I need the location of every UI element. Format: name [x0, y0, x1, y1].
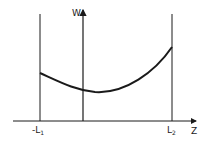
w-curve	[40, 47, 172, 92]
diagram-canvas: W Z -L1 L2	[0, 0, 203, 145]
z-axis-label: Z	[191, 126, 197, 136]
right-bound-label: L2	[167, 125, 176, 136]
w-axis-label: W	[72, 8, 81, 18]
left-bound-label: -L1	[32, 125, 44, 136]
